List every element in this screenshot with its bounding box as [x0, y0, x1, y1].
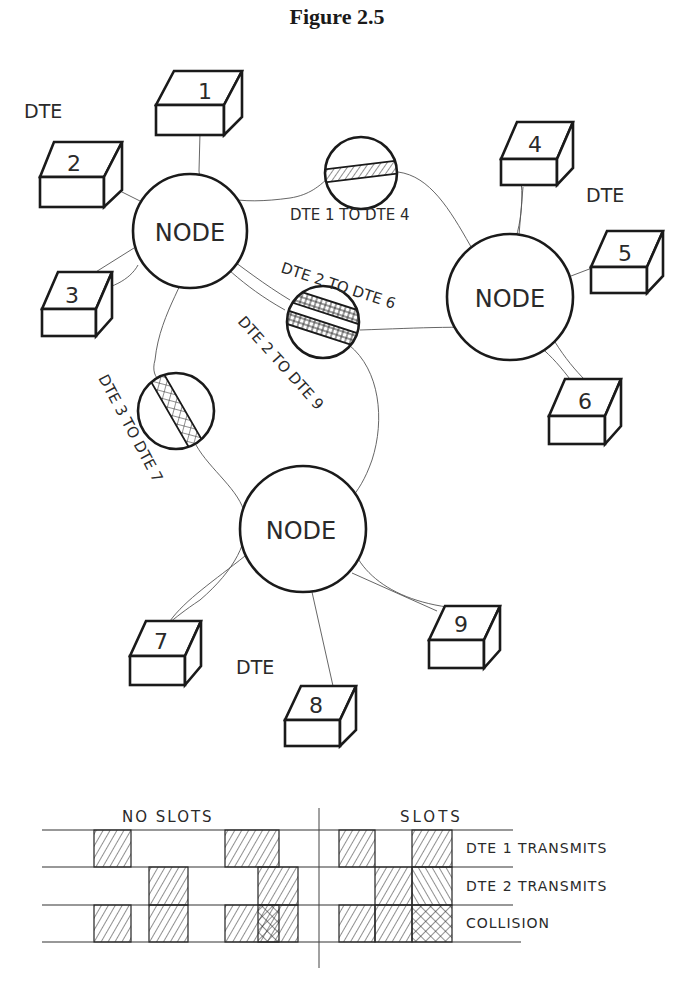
node-a-label: NODE [155, 219, 226, 247]
slots-combined-slot-1 [339, 905, 375, 942]
terminal-2: 2 [40, 142, 122, 207]
slots-label: SLOTS [400, 808, 463, 826]
terminal-5: 5 [591, 231, 663, 293]
row-label-collision: COLLISION [466, 915, 550, 931]
node-c: NODE [240, 466, 366, 592]
terminal-8-number: 8 [309, 693, 323, 718]
terminal-1-number: 1 [198, 79, 212, 104]
terminal-3: 3 [42, 272, 112, 336]
node-c-label: NODE [266, 517, 337, 545]
terminal-6: 6 [549, 379, 621, 444]
no-slots-dte2-burst-2 [258, 867, 298, 905]
node-a: NODE [133, 174, 247, 288]
terminal-2-number: 2 [67, 151, 81, 176]
dte-group-label-right: DTE [586, 184, 624, 206]
timing-diagram: NO SLOTS SLOTS DTE 1 TRANSMITS DTE 2 TRA… [42, 808, 607, 968]
slots-combined-slot-2 [375, 905, 412, 942]
no-slots-dte1-burst-2 [225, 830, 279, 867]
dte-group-label-left: DTE [24, 100, 62, 122]
terminal-1: 1 [156, 71, 242, 135]
network-diagram: NODE NODE NODE 1 2 3 4 5 [0, 0, 674, 985]
slots-dte2-slot-3 [412, 867, 452, 905]
connection-dte3-dte7 [138, 367, 214, 454]
terminal-9: 9 [429, 606, 500, 668]
node-b-label: NODE [475, 285, 546, 313]
no-slots-combined-1 [94, 905, 131, 942]
terminal-4-number: 4 [528, 132, 542, 157]
terminal-9-number: 9 [454, 612, 468, 637]
no-slots-label: NO SLOTS [122, 808, 214, 826]
node-b: NODE [447, 234, 573, 360]
no-slots-collision [258, 905, 279, 942]
connection-dte1-dte4 [320, 137, 402, 209]
terminal-7-number: 7 [154, 629, 168, 654]
slots-dte2-slot-2 [375, 867, 412, 905]
slots-dte1-slot-1 [339, 830, 375, 867]
terminal-6-number: 6 [578, 389, 592, 414]
slots-collision-slot-3 [412, 905, 452, 942]
row-label-dte2: DTE 2 TRANSMITS [466, 878, 607, 894]
dte-group-label-bottom: DTE [236, 656, 274, 678]
terminal-3-number: 3 [65, 283, 79, 308]
slots-dte1-slot-3 [412, 830, 452, 867]
terminal-4: 4 [501, 122, 573, 185]
no-slots-dte2-burst-1 [149, 867, 188, 905]
no-slots-combined-2 [149, 905, 188, 942]
row-label-dte1: DTE 1 TRANSMITS [466, 840, 607, 856]
no-slots-dte1-burst-1 [94, 830, 131, 867]
terminal-5-number: 5 [618, 241, 632, 266]
terminal-7: 7 [130, 621, 201, 685]
label-dte1-to-dte4: DTE 1 TO DTE 4 [290, 206, 410, 224]
terminal-8: 8 [285, 686, 356, 746]
